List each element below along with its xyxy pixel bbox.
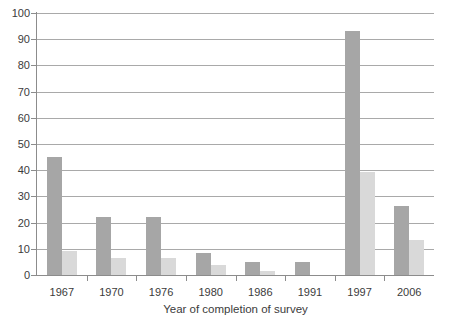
y-axis-tick	[31, 196, 36, 197]
y-axis-tick-label: 10	[2, 244, 30, 255]
y-axis-tick	[31, 275, 36, 276]
y-axis-tick-label: 70	[2, 87, 30, 98]
bar-chart: 0102030405060708090100 19671970197619801…	[0, 0, 449, 324]
x-axis-category-label: 1970	[87, 286, 137, 298]
y-axis-labels: 0102030405060708090100	[0, 0, 30, 324]
y-axis-tick	[31, 65, 36, 66]
x-axis-category-label: 1980	[186, 286, 236, 298]
bar	[47, 157, 62, 275]
y-axis-tick	[31, 118, 36, 119]
bar	[161, 258, 176, 275]
gridline	[37, 144, 434, 145]
y-axis-tick-label: 50	[2, 139, 30, 150]
y-axis-tick	[31, 144, 36, 145]
x-axis-category-label: 1976	[136, 286, 186, 298]
x-axis-tick	[136, 276, 137, 281]
gridline	[37, 39, 434, 40]
y-axis-tick-label: 30	[2, 191, 30, 202]
plot-area	[37, 13, 434, 275]
bar	[62, 251, 77, 275]
bar	[146, 217, 161, 275]
bar	[245, 262, 260, 275]
y-axis-tick-label: 20	[2, 218, 30, 229]
bar	[96, 217, 111, 275]
y-axis-tick	[31, 170, 36, 171]
x-axis-tick	[186, 276, 187, 281]
y-axis-tick-label: 90	[2, 34, 30, 45]
bar	[409, 240, 424, 275]
bar	[345, 31, 360, 275]
y-axis-tick-label: 80	[2, 60, 30, 71]
y-axis-tick	[31, 249, 36, 250]
y-axis-tick	[31, 39, 36, 40]
y-axis-tick	[31, 223, 36, 224]
y-axis-tick-label: 0	[2, 270, 30, 281]
x-axis-title: Year of completion of survey	[37, 303, 434, 316]
y-axis-tick-label: 40	[2, 165, 30, 176]
x-axis-tick	[87, 276, 88, 281]
gridline	[37, 92, 434, 93]
bar	[260, 271, 275, 275]
bar	[360, 172, 375, 275]
gridline	[37, 65, 434, 66]
x-axis-category-label: 1986	[236, 286, 286, 298]
x-axis-tick	[285, 276, 286, 281]
bar	[196, 253, 211, 275]
gridline	[37, 118, 434, 119]
bar	[211, 265, 226, 275]
y-axis-tick	[31, 92, 36, 93]
x-axis-tick	[236, 276, 237, 281]
y-axis-tick-label: 60	[2, 113, 30, 124]
x-axis-category-label: 1991	[285, 286, 335, 298]
bar	[111, 258, 126, 275]
bar	[394, 206, 409, 275]
x-axis-category-label: 1967	[37, 286, 87, 298]
y-axis-tick	[31, 13, 36, 14]
bar	[295, 262, 310, 275]
x-axis-tick	[384, 276, 385, 281]
x-axis-tick	[335, 276, 336, 281]
x-axis-category-label: 1997	[335, 286, 385, 298]
x-axis-category-label: 2006	[384, 286, 434, 298]
y-axis-tick-label: 100	[2, 8, 30, 19]
gridline	[37, 13, 434, 14]
